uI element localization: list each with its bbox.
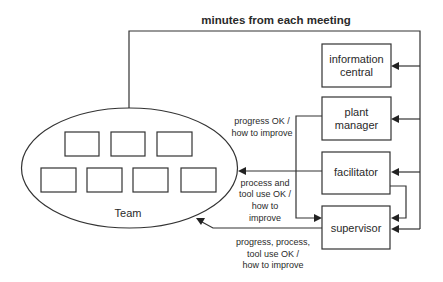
arrow-head-icon [391,62,399,70]
facilitator-label: facilitator [334,166,378,178]
arrow-head-icon [391,168,399,176]
information-central-label-line1: information [329,53,383,65]
team-member-box [133,168,168,192]
team-member-box [181,168,216,192]
plant-manager-to-supervisor-line [296,116,322,218]
arrow-head-icon [391,225,399,233]
arrow-head-icon [391,214,399,222]
svg-text:improve: improve [249,213,281,223]
facilitator-to-supervisor-line [390,186,406,218]
plant-manager-label-line1: plant [345,106,369,118]
team-member-box [41,168,76,192]
svg-text:tool use OK /: tool use OK / [239,189,292,199]
svg-text:process and: process and [240,178,289,188]
supervisor-label: supervisor [331,222,382,234]
svg-text:how to: how to [252,201,279,211]
svg-text:how to improve: how to improve [242,260,303,270]
svg-text:tool use OK /: tool use OK / [247,249,300,259]
team-member-box [157,132,192,156]
arrow-head-icon [391,115,399,123]
team-member-box [65,132,99,156]
information-central-label-line2: central [340,66,373,78]
facilitator-feedback-label: process and tool use OK / how to improve [239,178,292,223]
arrow-head-icon [196,218,205,225]
svg-text:progress OK /: progress OK / [234,116,290,126]
facilitator-node: facilitator [322,152,390,194]
arrow-head-icon [314,214,322,222]
plant-manager-feedback-label: progress OK / how to improve [231,116,292,138]
supervisor-feedback-label: progress, process, tool use OK / how to … [236,237,310,270]
diagram-title: minutes from each meeting [201,14,351,26]
plant-manager-label-line2: manager [335,119,379,131]
team-member-box [111,132,145,156]
svg-text:how to improve: how to improve [231,128,292,138]
team-feedback-diagram: minutes from each meeting Team informati… [0,0,443,282]
plant-manager-node: plant manager [322,97,391,140]
svg-text:progress, process,: progress, process, [236,237,310,247]
arrow-head-icon [238,167,246,175]
supervisor-node: supervisor [322,206,390,249]
team-label: Team [115,207,142,219]
information-central-node: information central [322,44,391,87]
team-member-box [87,168,122,192]
